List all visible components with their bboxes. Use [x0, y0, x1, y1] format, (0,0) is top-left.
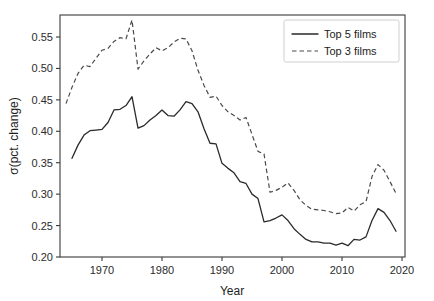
y-tick-label: 0.45 [32, 94, 53, 106]
chart-legend: Top 5 filmsTop 3 films [284, 20, 399, 62]
x-axis-ticks: 197019801990200020102020 [90, 257, 414, 276]
y-tick-label: 0.30 [32, 188, 53, 200]
x-tick-label: 1980 [150, 264, 174, 276]
y-tick-label: 0.25 [32, 220, 53, 232]
x-tick-label: 1970 [90, 264, 114, 276]
y-axis-title: σ(pct. change) [7, 97, 21, 174]
x-tick-label: 2010 [330, 264, 354, 276]
y-tick-label: 0.50 [32, 62, 53, 74]
sigma-pct-change-line-chart: 0.200.250.300.350.400.450.500.55 1970198… [0, 0, 434, 301]
x-tick-label: 1990 [210, 264, 234, 276]
chart-container: 0.200.250.300.350.400.450.500.55 1970198… [0, 0, 434, 301]
y-axis-ticks: 0.200.250.300.350.400.450.500.55 [32, 31, 60, 263]
x-tick-label: 2000 [270, 264, 294, 276]
series-line-1 [72, 97, 396, 246]
legend-label-2: Top 3 films [324, 45, 377, 57]
y-tick-label: 0.40 [32, 125, 53, 137]
legend-label-1: Top 5 films [324, 28, 377, 40]
x-tick-label: 2020 [390, 264, 414, 276]
y-tick-label: 0.20 [32, 251, 53, 263]
x-axis-title: Year [220, 284, 244, 298]
y-tick-label: 0.55 [32, 31, 53, 43]
y-tick-label: 0.35 [32, 157, 53, 169]
